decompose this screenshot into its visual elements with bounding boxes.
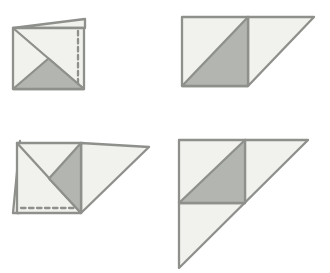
figure-bottom-right-fully-unfolded [179, 140, 308, 268]
figure-top-right-half-unfolded [182, 17, 314, 86]
unfolded-right-flap-triangle [81, 143, 149, 213]
figure-bottom-left-folded-square [13, 141, 149, 213]
origami-fold-diagram [0, 0, 330, 273]
unfolded-right-flap-triangle [248, 17, 314, 86]
top-flap-sliver [13, 19, 85, 28]
figure-top-left-folded-square [13, 19, 85, 89]
diagram-canvas [0, 0, 330, 273]
